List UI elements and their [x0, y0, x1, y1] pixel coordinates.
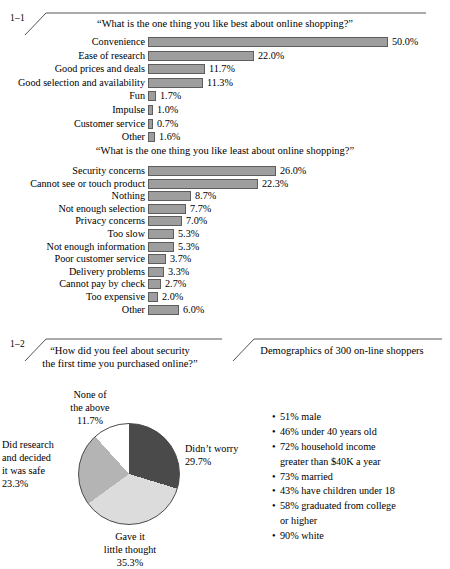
bar-category-label: Fun: [129, 91, 145, 101]
bar-fill: [148, 64, 205, 74]
bar-category-label: Good prices and deals: [55, 64, 145, 74]
bar-category-label: Too slow: [108, 229, 146, 239]
bar-category-label: Poor customer service: [54, 254, 145, 264]
bar-category-label: Other: [122, 132, 145, 142]
demographics-item: 43% have children under 18: [272, 484, 444, 499]
bar-value-label: 7.0%: [186, 216, 207, 226]
bar-fill: [148, 204, 186, 214]
bar-row: Convenience50.0%: [148, 36, 448, 48]
bar-value-label: 1.7%: [160, 91, 181, 101]
bar-value-label: 7.7%: [190, 204, 211, 214]
bar-row: Cannot see or touch product22.3%: [148, 178, 448, 190]
bar-row: Other6.0%: [148, 304, 448, 316]
bar-category-label: Cannot see or touch product: [30, 178, 145, 188]
bar-fill: [148, 267, 164, 277]
bar-fill: [148, 105, 153, 115]
bar-fill: [148, 242, 174, 252]
bar-value-label: 3.3%: [168, 267, 189, 277]
demographics-item: 90% white: [272, 529, 444, 544]
bar-chart-best: Convenience50.0%Ease of research22.0%Goo…: [148, 36, 448, 145]
pie-value-gave: 35.3%: [90, 556, 170, 569]
bar-value-label: 26.0%: [280, 166, 306, 176]
bar-value-label: 50.0%: [392, 37, 418, 47]
pie-label-none-of-the-above: None of the above 11.7%: [52, 388, 128, 427]
pie-value-research: 23.3%: [2, 477, 74, 490]
pie-label-research-line3: it was safe: [2, 464, 74, 477]
bar-category-label: Nothing: [112, 191, 145, 201]
demographics-list: 51% male46% under 40 years old72% househ…: [272, 410, 444, 544]
bar-row: Other1.6%: [148, 131, 448, 143]
demographics-item: 51% male: [272, 410, 444, 425]
bar-fill: [148, 78, 203, 88]
bar-value-label: 0.7%: [157, 118, 178, 128]
bar-row: Fun1.7%: [148, 90, 448, 102]
bar-category-label: Good selection and availability: [18, 78, 145, 88]
bar-fill: [148, 119, 153, 129]
bar-fill: [148, 51, 254, 61]
bar-value-label: 11.7%: [209, 64, 235, 74]
pie-value-none: 11.7%: [52, 414, 128, 427]
pie-label-did-research: Did research and decided it was safe 23.…: [2, 438, 74, 490]
pie-question-line2: the first time you purchased online?”: [20, 357, 220, 370]
pie-label-gave-line1: Gave it: [90, 530, 170, 543]
demographics-item: 73% married: [272, 470, 444, 485]
pie-label-didnt-worry: Didn’t worry 29.7%: [185, 442, 255, 468]
pie-value-didnt: 29.7%: [185, 455, 255, 468]
demographics-item: 72% household income greater than $40K a…: [272, 440, 444, 470]
demographics-item: 46% under 40 years old: [272, 425, 444, 440]
bar-category-label: Other: [122, 304, 145, 314]
bar-fill: [148, 191, 191, 201]
bar-category-label: Delivery problems: [69, 267, 145, 277]
bar-row: Delivery problems3.3%: [148, 266, 448, 278]
bar-row: Impulse1.0%: [148, 104, 448, 116]
bar-value-label: 5.3%: [178, 229, 199, 239]
bar-fill: [148, 216, 182, 226]
bar-category-label: Ease of research: [78, 50, 145, 60]
bar-fill: [148, 229, 174, 239]
bar-value-label: 3.7%: [170, 254, 191, 264]
pie-label-none-line1: None of: [52, 388, 128, 401]
bar-category-label: Cannot pay by check: [59, 279, 145, 289]
bar-category-label: Not enough information: [47, 241, 145, 251]
bar-value-label: 8.7%: [195, 191, 216, 201]
bar-category-label: Privacy concerns: [75, 216, 145, 226]
bar-value-label: 22.0%: [258, 50, 284, 60]
bar-value-label: 1.6%: [159, 132, 180, 142]
pie-question-line1: “How did you feel about security: [20, 344, 220, 357]
demographics-item: 58% graduated from college or higher: [272, 499, 444, 529]
pie-question: “How did you feel about security the fir…: [20, 344, 220, 370]
pie-label-research-line2: and decided: [2, 451, 74, 464]
bar-row: Cannot pay by check2.7%: [148, 278, 448, 290]
bar-fill: [148, 132, 155, 142]
bar-fill: [148, 37, 388, 47]
bar-chart-least: Security concerns26.0%Cannot see or touc…: [148, 165, 448, 316]
bar-row: Security concerns26.0%: [148, 165, 448, 177]
bar-row: Ease of research22.0%: [148, 50, 448, 62]
bar-row: Good selection and availability11.3%: [148, 77, 448, 89]
pie-label-gave-little-thought: Gave it little thought 35.3%: [90, 530, 170, 569]
bar-value-label: 1.0%: [157, 105, 178, 115]
bar-value-label: 2.0%: [162, 292, 183, 302]
bar-fill: [148, 254, 166, 264]
bar-value-label: 2.7%: [165, 279, 186, 289]
bar-fill: [148, 305, 179, 315]
bar-fill: [148, 279, 161, 289]
bar-fill: [148, 292, 158, 302]
bar-row: Nothing8.7%: [148, 190, 448, 202]
bar-category-label: Too expensive: [86, 292, 145, 302]
bar-row: Not enough information5.3%: [148, 241, 448, 253]
bar-category-label: Impulse: [112, 105, 145, 115]
bar-fill: [148, 179, 258, 189]
bar-row: Too slow5.3%: [148, 228, 448, 240]
chart1-question: “What is the one thing you like best abo…: [40, 17, 410, 30]
bar-row: Privacy concerns7.0%: [148, 215, 448, 227]
bar-category-label: Customer service: [74, 118, 145, 128]
pie-label-gave-line2: little thought: [90, 543, 170, 556]
pie-label-research-line1: Did research: [2, 438, 74, 451]
pie-label-none-line2: the above: [52, 401, 128, 414]
pie-disc: [78, 423, 180, 525]
chart2-question: “What is the one thing you like least ab…: [40, 144, 410, 157]
bar-category-label: Not enough selection: [58, 204, 145, 214]
section-number-1-1: 1–1: [10, 13, 25, 23]
bar-value-label: 11.3%: [207, 78, 233, 88]
